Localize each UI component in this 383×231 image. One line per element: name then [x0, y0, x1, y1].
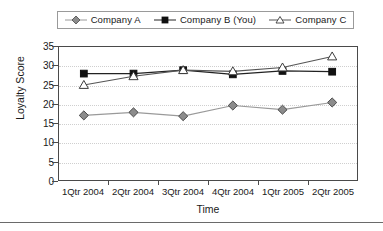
chart-figure: Company A Company B (You) Company C Loya…: [0, 0, 383, 231]
data-point-diamond: [79, 111, 88, 120]
legend-label-company-c: Company C: [295, 15, 346, 25]
x-axis-label: Time: [58, 203, 358, 215]
series-lines: [59, 47, 357, 180]
data-point-diamond: [228, 101, 237, 110]
plot-inner: [59, 47, 357, 180]
legend-item-company-a: Company A: [65, 15, 141, 25]
legend-label-company-b: Company B (You): [180, 15, 256, 25]
x-tick-label: 2Qtr 2005: [312, 186, 354, 197]
x-axis-tick-labels: 1Qtr 20042Qtr 20043Qtr 20044Qtr 20041Qtr…: [48, 186, 368, 200]
chart-legend: Company A Company B (You) Company C: [57, 11, 354, 29]
series-group: [80, 67, 335, 78]
legend-item-company-c: Company C: [269, 15, 346, 25]
x-tick-mark: [308, 181, 309, 185]
legend-marker-square-icon: [154, 15, 176, 25]
data-point-triangle: [328, 52, 337, 60]
data-point-diamond: [129, 108, 138, 117]
data-point-square: [80, 70, 87, 77]
bottom-divider: [0, 222, 383, 223]
legend-label-company-a: Company A: [91, 15, 141, 25]
x-tick-label: 3Qtr 2004: [162, 186, 204, 197]
x-tick-mark: [108, 181, 109, 185]
series-line: [84, 102, 332, 116]
legend-marker-triangle-icon: [269, 15, 291, 25]
y-axis-label: Loyalty Score: [14, 33, 26, 143]
legend-marker-diamond-icon: [65, 15, 87, 25]
x-tick-label: 4Qtr 2004: [212, 186, 254, 197]
series-group: [79, 52, 336, 88]
x-tick-mark: [158, 181, 159, 185]
data-point-diamond: [179, 112, 188, 121]
data-point-square: [329, 68, 336, 75]
legend-item-company-b: Company B (You): [154, 15, 256, 25]
data-point-diamond: [278, 105, 287, 114]
plot-area: [58, 46, 358, 181]
x-tick-label: 1Qtr 2004: [62, 186, 104, 197]
x-tick-label: 1Qtr 2005: [262, 186, 304, 197]
x-tick-label: 2Qtr 2004: [112, 186, 154, 197]
x-tick-mark: [258, 181, 259, 185]
y-axis-tick-labels: 05101520253035: [32, 46, 54, 181]
data-point-diamond: [328, 98, 337, 107]
x-tick-mark: [208, 181, 209, 185]
series-group: [79, 98, 336, 121]
